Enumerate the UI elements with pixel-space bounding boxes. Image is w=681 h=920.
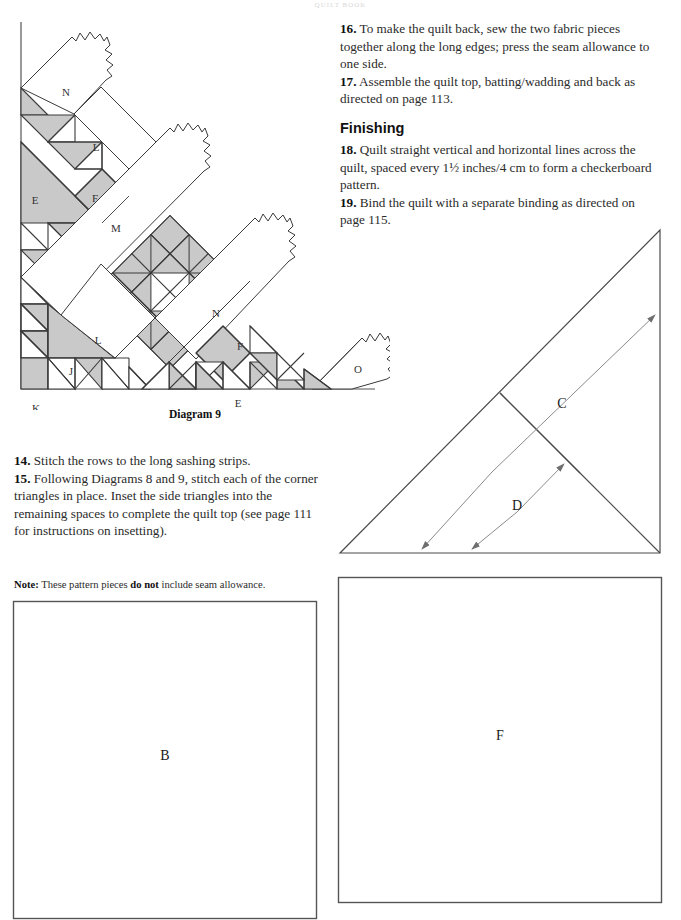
triangle-label-D: D <box>512 498 522 513</box>
document-page: QUILT BOOK <box>0 0 681 920</box>
pattern-piece-b-svg: B <box>12 600 318 920</box>
label-N-top: N <box>62 86 70 98</box>
label-F-lower: F <box>237 340 243 352</box>
instruction-16: 16. To make the quilt back, sew the two … <box>340 20 662 73</box>
finishing-heading: Finishing <box>340 119 662 137</box>
measure-arrow-C-rev <box>422 472 492 549</box>
pattern-piece-f: F <box>337 576 663 904</box>
diagram9-caption: Diagram 9 <box>110 408 280 420</box>
triangle-label-C: C <box>557 396 566 411</box>
instruction-17: 17. Assemble the quilt top, batting/wadd… <box>340 73 662 108</box>
pattern-piece-b: B <box>12 600 318 920</box>
instruction-15-number: 15. <box>14 471 30 486</box>
pattern-piece-f-svg: F <box>337 576 663 904</box>
note-emphasis: do not <box>130 579 159 590</box>
instruction-18: 18. Quilt straight vertical and horizont… <box>340 141 662 194</box>
label-F-upper: F <box>92 192 98 204</box>
instruction-18-text: Quilt straight vertical and horizontal l… <box>340 142 652 192</box>
label-E-left: E <box>32 194 39 206</box>
measure-arrow-D-rev <box>472 512 517 549</box>
label-N-lower: N <box>212 307 220 319</box>
label-K: K <box>32 402 40 410</box>
instructions-lower: 14. Stitch the rows to the long sashing … <box>14 452 326 540</box>
instruction-16-text: To make the quilt back, sew the two fabr… <box>340 21 649 71</box>
instruction-15-text: Following Diagrams 8 and 9, stitch each … <box>14 471 318 539</box>
note-text-before: These pattern pieces <box>39 579 131 590</box>
instruction-14-number: 14. <box>14 453 30 468</box>
note-text-after: include seam allowance. <box>159 579 265 590</box>
running-header: QUILT BOOK <box>0 1 681 9</box>
instruction-14-text: Stitch the rows to the long sashing stri… <box>30 453 250 468</box>
instruction-17-number: 17. <box>340 74 356 89</box>
label-J: J <box>69 365 74 377</box>
measure-arrow-C <box>492 315 655 472</box>
instruction-14: 14. Stitch the rows to the long sashing … <box>14 452 326 470</box>
measure-arrow-D <box>517 464 564 512</box>
triangle-diagram-svg: C D <box>332 222 672 562</box>
piece-b-label: B <box>160 748 169 763</box>
label-L-upper: L <box>93 141 100 153</box>
label-M: M <box>111 222 121 234</box>
instruction-15: 15. Following Diagrams 8 and 9, stitch e… <box>14 470 326 540</box>
piece-f-label: F <box>496 728 504 743</box>
seam-allowance-note: Note: These pattern pieces do not includ… <box>14 578 344 591</box>
corner-triangle-diagram: C D <box>332 222 672 562</box>
instructions-column: 16. To make the quilt back, sew the two … <box>340 20 662 229</box>
instruction-17-text: Assemble the quilt top, batting/wadding … <box>340 74 635 107</box>
instruction-16-number: 16. <box>340 21 356 36</box>
instruction-18-number: 18. <box>340 142 356 157</box>
instruction-19-number: 19. <box>340 195 356 210</box>
note-label: Note: <box>14 579 39 590</box>
label-L-lower: L <box>95 334 102 346</box>
